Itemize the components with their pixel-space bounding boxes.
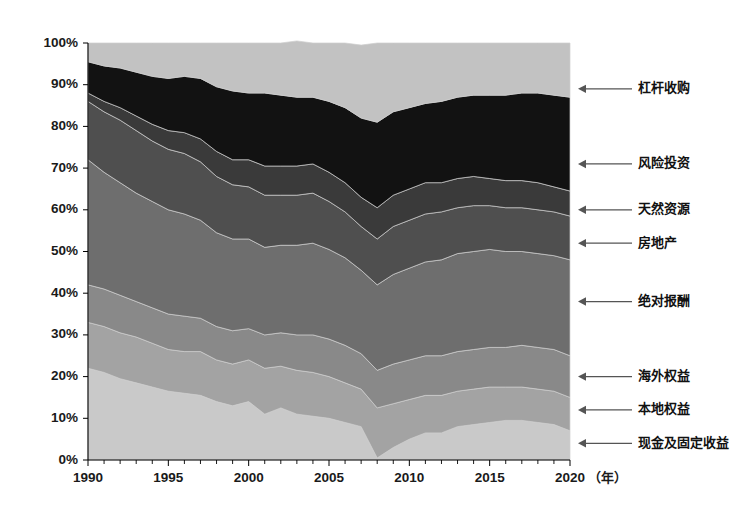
- x-axis-unit-label: （年）: [588, 470, 627, 485]
- y-tick-label: 80%: [51, 118, 78, 133]
- y-tick-label: 10%: [51, 410, 78, 425]
- series-label: 天然资源: [638, 201, 690, 216]
- series-label: 本地权益: [638, 401, 690, 416]
- x-tick-label: 1995: [153, 470, 184, 485]
- series-label: 绝对报酬: [638, 293, 690, 308]
- x-tick-label: 2005: [314, 470, 345, 485]
- series-label: 风险投资: [638, 155, 690, 170]
- y-tick-label: 50%: [51, 243, 78, 258]
- x-tick-label: 2015: [475, 470, 506, 485]
- area-bands-group: [88, 41, 570, 460]
- stacked-area-chart: 100%90%80%70%60%50%40%30%20%10%0% 199019…: [0, 0, 747, 524]
- series-label: 海外权益: [638, 368, 690, 383]
- y-tick-label: 0%: [58, 452, 78, 467]
- series-label: 房地产: [638, 235, 677, 250]
- chart-svg: 100%90%80%70%60%50%40%30%20%10%0% 199019…: [0, 0, 747, 524]
- y-tick-label: 20%: [51, 368, 78, 383]
- y-tick-label: 90%: [51, 76, 78, 91]
- y-tick-label: 70%: [51, 160, 78, 175]
- x-tick-label: 2000: [234, 470, 264, 485]
- y-tick-label: 40%: [51, 285, 78, 300]
- x-tick-label: 2010: [394, 470, 424, 485]
- series-label: 杠杆收购: [638, 80, 690, 95]
- series-label: 现金及固定收益: [638, 435, 729, 450]
- x-tick-label: 1990: [73, 470, 103, 485]
- x-tick-label: 2020: [555, 470, 585, 485]
- y-tick-label: 30%: [51, 326, 78, 341]
- y-tick-label: 60%: [51, 201, 78, 216]
- y-tick-label: 100%: [43, 35, 78, 50]
